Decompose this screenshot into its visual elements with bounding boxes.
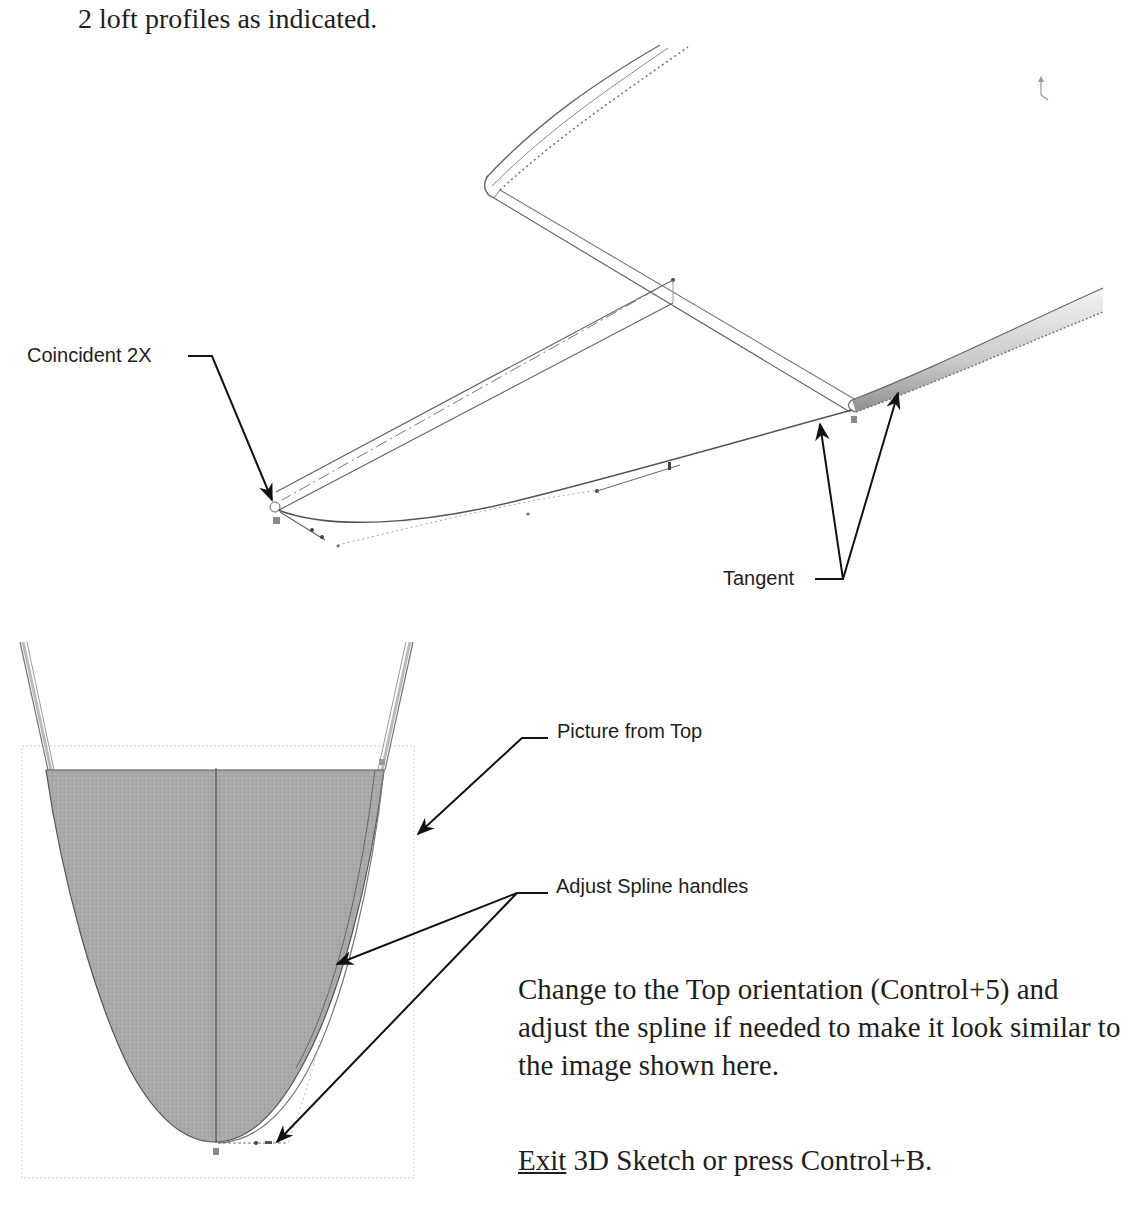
exit-instruction-rest: 3D Sketch or press Control+B. xyxy=(566,1144,932,1176)
picture-from-top-leader xyxy=(418,738,548,834)
exit-link: Exit xyxy=(518,1144,566,1176)
picture-from-top-label: Picture from Top xyxy=(557,719,702,743)
coincident-label: Coincident 2X xyxy=(27,343,152,367)
instruction-paragraph: Change to the Top orientation (Control+5… xyxy=(518,970,1128,1084)
loft-3d-view xyxy=(270,45,1103,548)
coincident-callout-leader xyxy=(188,356,272,500)
top-view-figure xyxy=(20,642,414,1178)
axis-triad-icon xyxy=(1038,76,1048,100)
tangent-label: Tangent xyxy=(723,566,794,590)
exit-instruction: Exit 3D Sketch or press Control+B. xyxy=(518,1141,932,1179)
adjust-spline-label: Adjust Spline handles xyxy=(556,874,748,898)
